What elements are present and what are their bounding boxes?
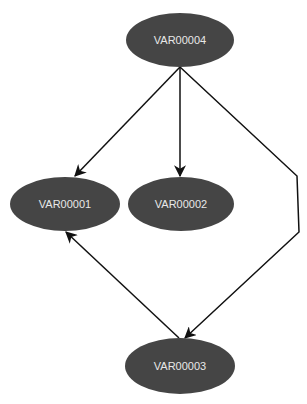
node-var00002[interactable]: VAR00002 — [128, 177, 234, 231]
node-var00001[interactable]: VAR00001 — [10, 177, 120, 231]
edge-var00004-to-var00001[interactable] — [75, 67, 180, 176]
node-label: VAR00002 — [155, 198, 207, 210]
node-label: VAR00003 — [154, 360, 206, 372]
node-label: VAR00001 — [39, 198, 91, 210]
node-var00003[interactable]: VAR00003 — [125, 338, 235, 394]
graph-canvas: VAR00004 VAR00001 VAR00002 VAR00003 — [0, 0, 307, 404]
node-label: VAR00004 — [154, 34, 206, 46]
node-var00004[interactable]: VAR00004 — [126, 13, 234, 67]
edge-var00003-to-var00001[interactable] — [66, 232, 179, 338]
